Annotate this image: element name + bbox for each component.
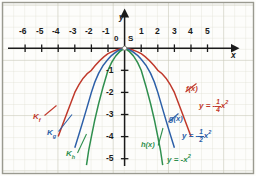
equation-g-exponent: 2 bbox=[208, 129, 211, 135]
kh-sub: h bbox=[72, 154, 75, 160]
x-tick-label--2: -2 bbox=[85, 27, 93, 36]
equation-f-exponent: 2 bbox=[225, 99, 228, 105]
x-axis-label: x bbox=[231, 51, 236, 60]
x-tick-label--1: -1 bbox=[102, 27, 110, 36]
origin-label: 0 bbox=[114, 35, 118, 43]
kf-sub: f bbox=[39, 117, 41, 123]
series-label-gx: g(x) bbox=[169, 115, 183, 123]
equation-f-lead: y = - bbox=[199, 101, 215, 110]
equation-h-lead: y = -x bbox=[167, 155, 188, 164]
equation-g: y = -12x2 bbox=[182, 129, 211, 143]
equation-f: y = -14x2 bbox=[199, 99, 228, 113]
kg-sub: g bbox=[53, 133, 56, 139]
vertex-label-s: S bbox=[128, 35, 133, 43]
x-tick-label-1: 1 bbox=[139, 27, 144, 36]
equation-h: y = -x2 bbox=[167, 154, 191, 164]
x-tick-label-4: 4 bbox=[188, 27, 193, 36]
curve-name-kf: Kf bbox=[33, 113, 41, 123]
equation-g-lead: y = - bbox=[182, 131, 198, 140]
x-tick-label-5: 5 bbox=[205, 27, 210, 36]
curve-name-kg: Kg bbox=[47, 129, 56, 139]
parabola-chart-figure: -6 -5 -4 -3 -2 -1 1 2 3 4 5 -1 -2 -3 -4 … bbox=[0, 0, 256, 176]
equation-h-exponent: 2 bbox=[188, 153, 191, 159]
x-tick-label-3: 3 bbox=[172, 27, 177, 36]
series-label-fx: f(x) bbox=[186, 85, 198, 93]
series-label-hx: h(x) bbox=[141, 141, 155, 149]
x-tick-label--5: -5 bbox=[36, 27, 44, 36]
vertex-point-s bbox=[123, 46, 127, 50]
y-tick-label--1: -1 bbox=[106, 66, 114, 75]
y-tick-label--3: -3 bbox=[106, 110, 114, 119]
y-axis-label: y bbox=[119, 13, 124, 22]
y-tick-label--2: -2 bbox=[106, 88, 114, 97]
x-tick-label-2: 2 bbox=[155, 27, 160, 36]
x-tick-label--6: -6 bbox=[19, 27, 27, 36]
y-tick-label--5: -5 bbox=[106, 154, 114, 163]
x-tick-label--4: -4 bbox=[52, 27, 60, 36]
y-tick-label--4: -4 bbox=[106, 132, 114, 141]
x-tick-label--3: -3 bbox=[69, 27, 77, 36]
curve-name-kh: Kh bbox=[66, 150, 75, 160]
